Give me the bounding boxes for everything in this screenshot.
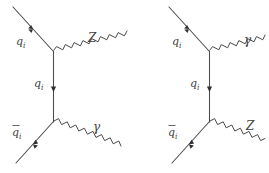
right-z-boson-wave — [210, 119, 265, 141]
right-incoming-quark-label: qi — [172, 35, 182, 50]
left-incoming-antiquark-arrowhead-b — [33, 145, 38, 149]
right-incoming-antiquark-arrowhead — [189, 140, 194, 145]
diagram-canvas: qi qi qi Z γ — [0, 0, 269, 173]
right-incoming-quark-arrowhead-b — [184, 29, 189, 33]
right-diagram: qi qi qi γ Z — [168, 7, 265, 163]
left-photon-wave — [54, 119, 121, 146]
left-incoming-antiquark-arrowhead — [33, 140, 38, 145]
feynman-diagram-figure: qi qi qi Z γ — [0, 0, 269, 173]
right-propagator-label: qi — [190, 77, 200, 92]
right-incoming-antiquark-label-group: qi — [168, 126, 178, 141]
left-incoming-antiquark-label: qi — [12, 126, 22, 141]
right-propagator-arrowhead — [207, 87, 212, 92]
left-incoming-quark-label: qi — [16, 35, 26, 50]
right-incoming-antiquark-label: qi — [168, 126, 178, 141]
right-z-boson-label: Z — [245, 119, 255, 133]
left-propagator-arrowhead — [51, 87, 56, 92]
right-incoming-antiquark-arrowhead-b — [189, 145, 194, 149]
left-incoming-antiquark-label-group: qi — [12, 126, 22, 141]
left-diagram: qi qi qi Z γ — [12, 7, 127, 163]
left-photon-label: γ — [93, 120, 101, 134]
left-incoming-quark-arrowhead-b — [28, 29, 33, 33]
right-photon-label: γ — [244, 33, 252, 47]
right-photon-wave — [210, 35, 265, 50]
left-z-boson-label: Z — [87, 31, 97, 45]
left-propagator-label: qi — [34, 77, 44, 92]
